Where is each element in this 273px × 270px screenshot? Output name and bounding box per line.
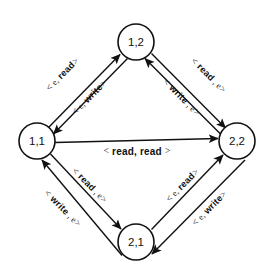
node-label: 1,1 [29,135,45,147]
edge-label-12-to-22: < read , e> [189,55,229,95]
edge-11-to-22 [55,139,218,143]
edge-11-to-21 [51,154,122,229]
graph-canvas: 1,2 1,1 2,2 2,1 < e, read> < e, write> [0,0,273,270]
edge-label-11-to-12: < e, read> [43,55,81,93]
edge-label-22-to-21: < e, write> [189,188,229,228]
node-2-1[interactable]: 2,1 [118,224,154,260]
node-2-2[interactable]: 2,2 [219,123,255,159]
edge-12-to-22 [152,54,226,129]
edge-label-21-to-11: < write , e> [42,187,84,229]
edge-label-11-to-21: < read , e> [70,165,110,205]
node-label: 1,2 [128,36,144,48]
edge-label-12-to-11: < e, write> [69,77,109,117]
node-label: 2,1 [128,236,144,248]
edge-label-11-to-22: < read, read > [103,145,170,156]
state-transition-diagram: 1,2 1,1 2,2 2,1 < e, read> < e, write> [0,0,273,270]
nodes-layer: 1,2 1,1 2,2 2,1 [19,24,255,260]
edge-11-to-12 [49,55,121,128]
node-label: 2,2 [229,135,245,147]
node-1-2[interactable]: 1,2 [118,24,154,60]
edge-label-22-to-12: < write , e> [161,76,203,118]
node-1-1[interactable]: 1,1 [19,123,55,159]
